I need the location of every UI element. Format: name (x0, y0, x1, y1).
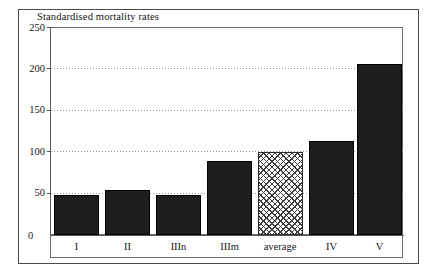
xtick-label-I: I (54, 241, 99, 252)
chart-title: Standardised mortality rates (37, 11, 159, 22)
bar-V[interactable] (357, 64, 402, 235)
xtick-label-V: V (357, 241, 402, 252)
ytick-label-50: 50 (35, 188, 46, 199)
bar-IIIm[interactable] (207, 161, 252, 235)
xtick-label-IIIm: IIIm (207, 241, 252, 252)
xtick-label-average: average (256, 241, 304, 252)
bar-I[interactable] (54, 195, 99, 235)
ytick-mark-200 (47, 68, 51, 69)
ytick-label-250: 250 (29, 23, 45, 34)
ytick-label-0: 0 (28, 230, 33, 241)
xtick-label-IIIn: IIIn (156, 241, 201, 252)
gridline-150 (51, 110, 403, 111)
ytick-label-200: 200 (29, 64, 45, 75)
ytick-mark-150 (47, 110, 51, 111)
gridline-200 (51, 68, 403, 69)
bar-average[interactable] (258, 152, 303, 235)
xtick-label-IV: IV (309, 241, 354, 252)
bar-II[interactable] (105, 190, 150, 235)
ytick-label-100: 100 (29, 147, 45, 158)
bar-IIIn[interactable] (156, 195, 201, 235)
xtick-label-II: II (105, 241, 150, 252)
ytick-mark-50 (47, 193, 51, 194)
ytick-mark-100 (47, 151, 51, 152)
ytick-label-150: 150 (29, 105, 45, 116)
plot-area (51, 28, 403, 235)
bar-IV[interactable] (309, 141, 354, 235)
ytick-mark-250 (47, 27, 51, 28)
